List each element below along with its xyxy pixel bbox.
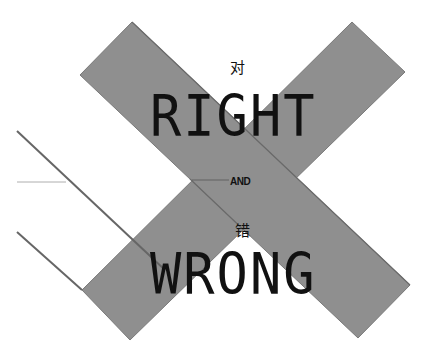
top-chinese-character: 对 — [230, 61, 245, 76]
middle-word: AND — [230, 177, 250, 187]
bottom-word: WRONG — [150, 246, 317, 302]
top-word: RIGHT — [150, 88, 317, 144]
diagonal-line-2 — [17, 232, 82, 290]
diagonal-line-1 — [17, 131, 165, 270]
x-cross-graphic — [0, 0, 430, 362]
bottom-chinese-character: 错 — [235, 224, 250, 239]
